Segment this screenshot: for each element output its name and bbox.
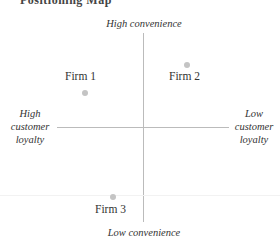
firm-2-label: Firm 2 [169, 70, 200, 82]
figure-header: Positioning Map [20, 0, 112, 8]
firm-3-label: Firm 3 [95, 203, 126, 215]
axis-label-right: Low customer loyalty [228, 107, 280, 146]
horizontal-axis [57, 127, 229, 128]
firm-1-label: Firm 1 [65, 70, 96, 82]
axis-label-top: High convenience [98, 17, 190, 30]
axis-label-right-line1: Low [228, 107, 280, 120]
firm-2-marker [184, 62, 190, 68]
axis-label-left-line2: customer [4, 120, 56, 133]
axis-label-right-line2: customer [228, 120, 280, 133]
divider [0, 195, 280, 196]
firm-1-marker [82, 90, 88, 96]
axis-label-left-line3: loyalty [4, 133, 56, 146]
axis-label-left: High customer loyalty [4, 107, 56, 146]
axis-label-bottom: Low convenience [98, 226, 190, 239]
axis-label-left-line1: High [4, 107, 56, 120]
firm-3-marker [110, 194, 116, 200]
axis-label-right-line3: loyalty [228, 133, 280, 146]
